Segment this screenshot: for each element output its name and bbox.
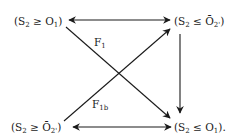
- node-operator: ≤: [190, 121, 205, 133]
- node-variable: Ō: [205, 15, 214, 27]
- node-text: (S: [14, 15, 25, 27]
- node-text: (S: [11, 121, 22, 133]
- edge-label-f1: F1: [94, 36, 106, 52]
- node-text: ).: [218, 121, 225, 133]
- node-variable: Ō: [42, 121, 51, 133]
- state-transition-diagram: (S2 ≥ O1) (S2 ≤ Ō2') (S2 ≥ Ō2') (S2 ≤ O1…: [0, 0, 241, 140]
- node-bottom-right: (S2 ≤ O1).: [174, 121, 226, 137]
- node-operator: ≥: [30, 15, 45, 27]
- node-operator: ≥: [27, 121, 42, 133]
- edge-label-subscript: 1b: [99, 104, 108, 112]
- node-text: ): [57, 121, 61, 133]
- node-text: ): [58, 15, 62, 27]
- node-variable: O: [205, 121, 214, 133]
- node-text: ): [220, 15, 224, 27]
- node-operator: ≤: [190, 15, 205, 27]
- edge-label-subscript: 1: [101, 42, 105, 50]
- node-bottom-left: (S2 ≥ Ō2'): [11, 121, 61, 137]
- node-top-left: (S2 ≥ O1): [14, 15, 62, 31]
- edge-label-f1b: F1b: [92, 98, 108, 114]
- node-text: (S: [174, 15, 185, 27]
- node-variable: O: [45, 15, 54, 27]
- node-top-right: (S2 ≤ Ō2'): [174, 15, 224, 31]
- f1b-diagonal-arrow: [64, 29, 170, 121]
- f1-diagonal-arrow: [66, 27, 170, 118]
- node-text: (S: [174, 121, 185, 133]
